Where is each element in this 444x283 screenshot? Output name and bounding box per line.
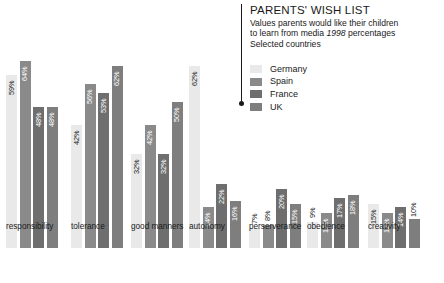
bar-group: 32%42%32%50%good manners (131, 35, 183, 248)
bar-autonomy-germany[interactable]: 62% (189, 66, 200, 248)
category-label-autonomy: autonomy (189, 222, 225, 231)
bar-value-label: 8% (264, 210, 271, 221)
chart-page: PARENTS' WISH LIST Values parents would … (0, 0, 444, 283)
bar-value-label: 22% (218, 189, 225, 204)
bar-value-label: 62% (191, 72, 198, 87)
category-label-creativity: creativity (368, 222, 400, 231)
bar-creativity-uk[interactable]: 10% (409, 219, 420, 248)
bar-value-label: 18% (350, 201, 357, 216)
bar-value-label: 20% (278, 195, 285, 210)
bar-value-label: 32% (160, 160, 167, 175)
bar-value-label: 62% (114, 72, 121, 87)
bar-perserverance-france[interactable]: 20% (276, 189, 287, 248)
category-label-responsibility: responsibility (6, 222, 53, 231)
bar-group: 59%64%48%48%responsibility (6, 35, 58, 248)
subtitle-line-1: Values parents would like their children (250, 18, 398, 28)
bar-value-label: 42% (73, 130, 80, 145)
bar-value-label: 9% (309, 207, 316, 218)
bar-value-label: 59% (8, 81, 15, 96)
bar-group: 42%56%53%62%tolerance (71, 35, 123, 248)
bar-group: 15%12%14%10%creativity (368, 35, 420, 248)
bar-tolerance-uk[interactable]: 62% (112, 66, 123, 248)
bar-good-manners-germany[interactable]: 32% (131, 154, 142, 248)
bar-value-label: 56% (86, 89, 93, 104)
bar-group: 7%8%20%15%perserverance (249, 35, 301, 248)
bar-value-label: 48% (35, 113, 42, 128)
bar-value-label: 50% (174, 107, 181, 122)
bar-value-label: 10% (411, 202, 418, 217)
bar-autonomy-uk[interactable]: 16% (230, 201, 241, 248)
bar-group: 9%12%17%18%obedience (307, 35, 359, 248)
bar-value-label: 42% (146, 130, 153, 145)
chart-title: PARENTS' WISH LIST (250, 4, 444, 17)
category-label-perserverance: perserverance (249, 222, 301, 231)
bar-obedience-uk[interactable]: 18% (348, 195, 359, 248)
category-label-tolerance: tolerance (71, 222, 105, 231)
bar-value-label: 17% (336, 204, 343, 219)
bar-group: 62%14%22%16%autonomy (189, 35, 241, 248)
bar-responsibility-spain[interactable]: 64% (20, 61, 31, 248)
bar-value-label: 64% (21, 66, 28, 81)
category-label-good-manners: good manners (131, 222, 183, 231)
bar-value-label: 53% (100, 98, 107, 113)
bar-autonomy-france[interactable]: 22% (216, 184, 227, 248)
bar-value-label: 48% (49, 113, 56, 128)
header-rule (241, 4, 242, 104)
bar-value-label: 16% (232, 206, 239, 221)
bar-good-manners-france[interactable]: 32% (158, 154, 169, 248)
bar-value-label: 32% (133, 160, 140, 175)
category-label-obedience: obedience (307, 222, 345, 231)
